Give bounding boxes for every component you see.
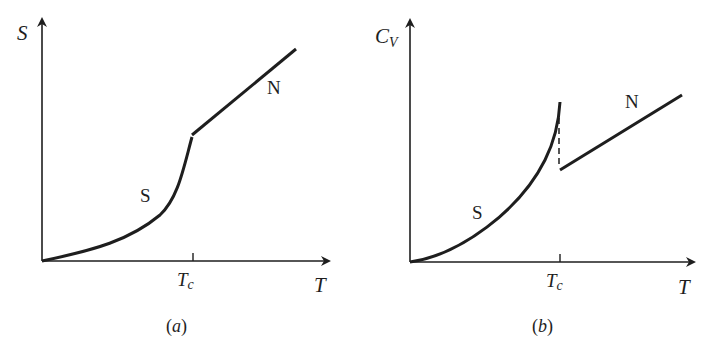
tc-label: Tc (177, 269, 195, 292)
s-series-label: S (472, 202, 483, 223)
x-axis-label: T (314, 273, 327, 297)
n-line (560, 95, 682, 170)
panel-b: CV T Tc S N (b) (375, 20, 694, 337)
s-curve (42, 137, 192, 261)
panel-a: S T Tc S N (a) (17, 19, 329, 337)
s-series-label: S (140, 185, 151, 206)
y-axis-label: S (17, 21, 28, 45)
n-series-label: N (625, 91, 639, 112)
caption-a: (a) (166, 316, 187, 337)
caption-b: (b) (532, 316, 553, 337)
s-curve (410, 102, 560, 262)
n-series-label: N (267, 77, 281, 98)
figure: S T Tc S N (a) CV T Tc S N (b) (0, 0, 706, 362)
x-axis-label: T (678, 275, 691, 299)
tc-label: Tc (546, 270, 564, 293)
y-axis-label: CV (375, 24, 399, 50)
